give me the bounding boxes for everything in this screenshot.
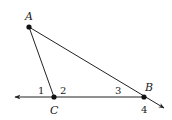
label-a: A xyxy=(24,10,33,23)
point-a xyxy=(26,24,31,29)
angle-2-label: 2 xyxy=(60,85,66,96)
point-b xyxy=(141,94,146,99)
angle-4-label: 4 xyxy=(141,104,147,115)
label-b: B xyxy=(144,81,153,94)
point-c xyxy=(51,94,56,99)
label-c: C xyxy=(50,104,59,117)
triangle-diagram: A B C 1 2 3 4 xyxy=(0,0,172,120)
angle-3-label: 3 xyxy=(115,85,121,96)
angle-1-label: 1 xyxy=(38,85,44,96)
